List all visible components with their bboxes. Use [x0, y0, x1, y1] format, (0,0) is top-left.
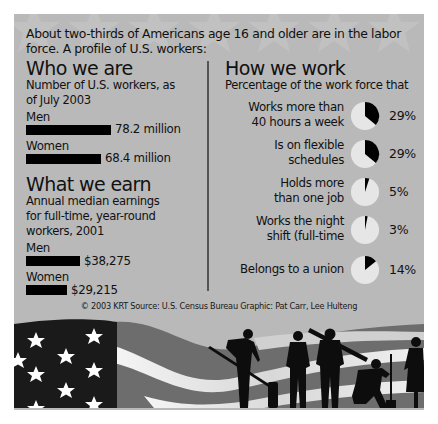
- label-line-2: than one job: [194, 191, 344, 206]
- work-row-value: 29%: [389, 108, 416, 123]
- what-we-earn-title: What we earn: [26, 174, 151, 194]
- workers-women-label: Women: [26, 140, 69, 153]
- what-we-earn-subtitle-2: for full-time, year-round: [26, 209, 155, 224]
- credit-line: © 2003 KRT Source: U.S. Census Bureau Gr…: [14, 301, 424, 311]
- work-row-label: Is on flexible schedules: [194, 138, 344, 168]
- label-line-1: Belongs to a union: [194, 262, 344, 277]
- how-we-work-title: How we work: [225, 58, 345, 78]
- infographic-panel: About two-thirds of Americans age 16 and…: [14, 14, 424, 410]
- earnings-men-bar: [26, 256, 80, 266]
- what-we-earn-subtitle-1: Annual median earnings: [26, 194, 160, 209]
- label-line-1: Is on flexible: [194, 138, 344, 153]
- earnings-women-value: $29,215: [71, 284, 118, 297]
- workers-women-value: 68.4 million: [105, 152, 171, 165]
- work-row-label: Works the night shift (full-time: [194, 214, 344, 244]
- work-row-over-40-hours: Works more than 40 hours a week 29%: [214, 100, 424, 134]
- pie-29-icon: [350, 101, 380, 131]
- label-line-2: schedules: [194, 153, 344, 168]
- label-line-1: Works more than: [194, 100, 344, 115]
- work-row-label: Holds more than one job: [194, 176, 344, 206]
- pie-3-icon: [350, 215, 380, 245]
- earnings-women-bar: [26, 285, 67, 295]
- label-line-2: shift (full-time: [194, 229, 344, 244]
- pie-14-icon: [350, 255, 380, 285]
- work-row-value: 5%: [389, 184, 408, 199]
- workers-men-label: Men: [26, 111, 50, 124]
- how-we-work-subtitle: Percentage of the work force that: [225, 78, 408, 93]
- work-row-flexible: Is on flexible schedules 29%: [214, 138, 424, 172]
- pie-5-icon: [350, 177, 380, 207]
- work-row-value: 29%: [389, 146, 416, 161]
- work-row-multiple-jobs: Holds more than one job 5%: [214, 176, 424, 210]
- earnings-men-label: Men: [26, 242, 50, 255]
- earnings-men-value: $38,275: [84, 255, 131, 268]
- intro-text: About two-thirds of Americans age 16 and…: [26, 26, 416, 56]
- label-line-1: Works the night: [194, 214, 344, 229]
- work-row-value: 14%: [389, 262, 416, 277]
- work-row-value: 3%: [389, 222, 408, 237]
- earnings-women-label: Women: [26, 271, 69, 284]
- work-row-night-shift: Works the night shift (full-time 3%: [214, 214, 424, 248]
- work-row-union: Belongs to a union 14%: [214, 254, 424, 288]
- who-we-are-subtitle-1: Number of U.S. workers, as: [26, 78, 175, 93]
- workers-women-bar: [26, 154, 101, 164]
- flag-workers-illustration-icon: [14, 318, 424, 408]
- workers-men-bar: [26, 125, 111, 135]
- work-row-label: Works more than 40 hours a week: [194, 100, 344, 130]
- workers-men-value: 78.2 million: [115, 123, 181, 136]
- pie-29-icon: [350, 139, 380, 169]
- label-line-1: Holds more: [194, 176, 344, 191]
- who-we-are-title: Who we are: [26, 58, 133, 78]
- label-line-2: 40 hours a week: [194, 115, 344, 130]
- what-we-earn-subtitle-3: workers, 2001: [26, 224, 104, 239]
- who-we-are-subtitle-2: of July 2003: [26, 93, 91, 108]
- work-row-label: Belongs to a union: [194, 262, 344, 277]
